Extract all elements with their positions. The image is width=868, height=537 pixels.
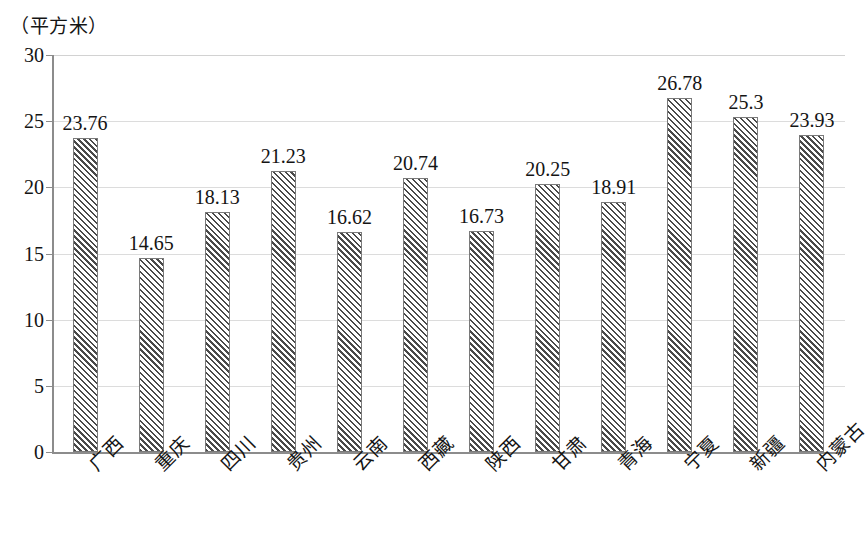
x-label-slot: 云南 (316, 454, 382, 537)
plot-area: 23.7614.6518.1321.2316.6220.7416.7320.25… (52, 55, 845, 452)
x-label-slot: 广西 (52, 454, 118, 537)
bar-value-label: 18.91 (569, 176, 659, 198)
bar-group: 18.91 (581, 55, 647, 452)
y-tick-label-30: 30 (0, 45, 44, 65)
bar-value-label: 14.65 (106, 232, 196, 254)
bar[interactable] (139, 258, 164, 452)
bar-value-label: 20.74 (370, 152, 460, 174)
x-label-slot: 青海 (581, 454, 647, 537)
bar-group: 16.73 (449, 55, 515, 452)
x-label-slot: 贵州 (250, 454, 316, 537)
y-axis-unit-caption: （平方米） (10, 16, 108, 38)
bar[interactable] (271, 171, 296, 452)
y-tick-label-20: 20 (0, 177, 44, 197)
x-label-slot: 陕西 (449, 454, 515, 537)
bar[interactable] (469, 231, 494, 452)
x-label-slot: 新疆 (713, 454, 779, 537)
x-label-slot: 宁夏 (647, 454, 713, 537)
bar-group: 26.78 (647, 55, 713, 452)
bar[interactable] (403, 178, 428, 452)
bar-group: 14.65 (118, 55, 184, 452)
bar[interactable] (535, 184, 560, 452)
bars-layer: 23.7614.6518.1321.2316.6220.7416.7320.25… (52, 55, 845, 452)
x-axis-category-labels: 广西重庆四川贵州云南西藏陕西甘肃青海宁夏新疆内蒙古 (52, 454, 845, 537)
x-label-slot: 四川 (184, 454, 250, 537)
x-label-slot: 西藏 (382, 454, 448, 537)
y-tick-label-5: 5 (0, 376, 44, 396)
bar[interactable] (205, 212, 230, 452)
bar[interactable] (733, 117, 758, 452)
bar-value-label: 16.62 (304, 206, 394, 228)
bar[interactable] (337, 232, 362, 452)
bar-value-label: 21.23 (238, 145, 328, 167)
bar-value-label: 18.13 (172, 186, 262, 208)
y-axis-line (52, 55, 54, 453)
bar-group: 18.13 (184, 55, 250, 452)
bar-group: 23.93 (779, 55, 845, 452)
y-tick-label-15: 15 (0, 244, 44, 264)
bar-group: 21.23 (250, 55, 316, 452)
y-tick-label-0: 0 (0, 442, 44, 462)
x-label-slot: 内蒙古 (779, 454, 845, 537)
bar-group: 20.25 (515, 55, 581, 452)
bar-value-label: 23.93 (767, 109, 857, 131)
y-tick-label-10: 10 (0, 310, 44, 330)
x-label-slot: 甘肃 (515, 454, 581, 537)
bar[interactable] (667, 98, 692, 452)
x-label-slot: 重庆 (118, 454, 184, 537)
bar-value-label: 16.73 (437, 205, 527, 227)
bar-group: 20.74 (382, 55, 448, 452)
bar-group: 16.62 (316, 55, 382, 452)
bar[interactable] (73, 138, 98, 452)
y-tick-label-25: 25 (0, 111, 44, 131)
bar[interactable] (601, 202, 626, 452)
bar[interactable] (799, 135, 824, 452)
